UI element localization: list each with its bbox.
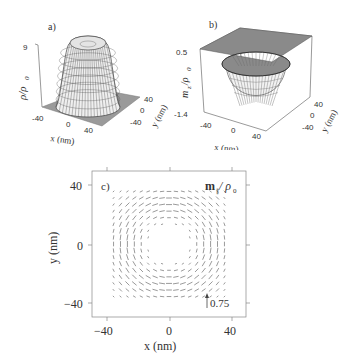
x-tick-40: 40	[224, 324, 236, 338]
y-tick-0: 0	[77, 239, 83, 253]
panel-a-label: a)	[48, 21, 56, 33]
mesa-surface	[56, 36, 120, 117]
panel-b-mz-surface: b) 0.5 -1.4 m z /ρ 0 -40 0 40 40 0 -40 x…	[174, 0, 348, 150]
y-tick-neg40: -40	[130, 118, 142, 127]
panel-a-density-surface: a) 9 ρ/ρ 0 -40 0 40 40 0 -40 x (nm) y (n…	[0, 0, 174, 150]
flat-plane	[200, 28, 312, 76]
y-axis-label: y (nm)	[319, 108, 339, 134]
svg-text:0: 0	[185, 67, 193, 71]
y-tick-0: 0	[140, 106, 145, 115]
y-tick-40: 40	[314, 100, 323, 109]
svg-text:0: 0	[233, 187, 237, 195]
x-axis-label: x (nm)	[144, 339, 176, 353]
z-axis-label: m z /ρ 0	[179, 67, 193, 98]
y-axis-label: y (nm)	[46, 232, 60, 264]
x-tick-0: 0	[66, 120, 71, 129]
svg-text:ρ/ρ: ρ/ρ	[16, 86, 28, 101]
z-tick-9: 9	[23, 43, 28, 52]
y-tick-40: 40	[144, 95, 153, 104]
svg-text:/ ρ: / ρ	[218, 179, 231, 193]
x-tick-40: 40	[252, 132, 261, 141]
reference-arrow-value: 0.75	[210, 297, 230, 309]
y-tick-40: 40	[70, 179, 82, 193]
x-axis-label: x (nm)	[50, 133, 75, 146]
y-tick-0: 0	[310, 111, 315, 120]
x-tick-neg40: −40	[94, 324, 113, 338]
z-tick-0.5: 0.5	[176, 48, 188, 57]
svg-text:m: m	[179, 91, 190, 98]
svg-text:0: 0	[23, 76, 31, 80]
z-tick-neg1.4: -1.4	[174, 110, 188, 119]
x-axis-label: x (nm)	[214, 142, 239, 150]
x-tick-0: 0	[231, 126, 236, 135]
z-axis	[38, 45, 42, 107]
x-tick-neg40: -40	[200, 121, 212, 130]
z-axis-label: ρ/ρ 0	[16, 76, 31, 101]
y-axis-label: y (nm)	[149, 103, 169, 129]
svg-text:/ρ: /ρ	[179, 77, 190, 86]
y-tick-neg40: −40	[64, 297, 83, 311]
panel-b-label: b)	[209, 19, 217, 31]
svg-text:z: z	[185, 86, 193, 90]
panel-c-label: c)	[101, 180, 110, 193]
x-tick-neg40: -40	[32, 114, 44, 123]
x-tick-0: 0	[166, 324, 172, 338]
x-tick-40: 40	[84, 126, 93, 135]
panel-c-vector-field: 40 0 −40 −40 0 40 x (nm) y (nm) c) m ∥ /…	[0, 150, 348, 362]
y-tick-neg40: -40	[302, 123, 314, 132]
